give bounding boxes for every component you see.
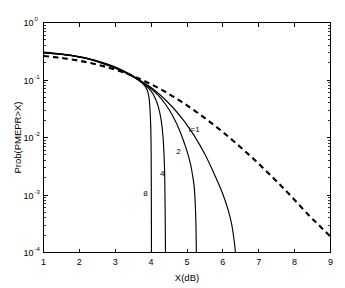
y-tick-label-exponent: -2 [35, 131, 41, 137]
curve-label-i-1: i=1 [189, 125, 200, 134]
y-tick-label: 10 [23, 133, 33, 143]
curves-group [44, 52, 331, 252]
curve-2 [44, 53, 197, 253]
curve-label-4: 4 [160, 169, 165, 178]
y-tick-label-exponent: -3 [35, 189, 41, 195]
plot-frame [44, 23, 331, 253]
curve-8 [44, 53, 152, 253]
clipped-curves [44, 52, 331, 252]
y-axis-label: Prob(PMEPR>X) [12, 101, 23, 173]
y-tick-label: 10 [23, 248, 33, 258]
x-tick-label: 9 [328, 257, 333, 267]
x-tick-label: 4 [149, 257, 154, 267]
y-tick-label: 10 [23, 18, 33, 28]
axis-labels-group: X(dB)Prob(PMEPR>X) [12, 101, 199, 282]
curve-label-8: 8 [143, 189, 148, 198]
y-tick-label: 10 [23, 191, 33, 201]
x-tick-label: 6 [220, 257, 225, 267]
curve-label-2: 2 [176, 147, 181, 156]
x-tick-label: 2 [77, 257, 82, 267]
x-tick-label: 1 [41, 257, 46, 267]
tick-labels-group: 12345678910010-110-210-310-4 [23, 16, 333, 267]
y-tick-label-exponent: -1 [35, 74, 41, 80]
curve-reference [44, 56, 331, 237]
chart-figure: 12345678910010-110-210-310-4 i=1248 X(dB… [0, 0, 345, 288]
curve-i-1 [44, 52, 236, 252]
x-tick-label: 7 [256, 257, 261, 267]
x-tick-label: 5 [184, 257, 189, 267]
y-tick-label-exponent: 0 [35, 16, 39, 22]
x-tick-label: 3 [113, 257, 118, 267]
x-axis-label: X(dB) [175, 272, 199, 283]
x-tick-label: 8 [292, 257, 297, 267]
y-tick-label: 10 [23, 76, 33, 86]
y-tick-label-exponent: -4 [35, 246, 41, 252]
chart-canvas: 12345678910010-110-210-310-4 i=1248 X(dB… [0, 0, 345, 288]
axes-group [44, 23, 331, 253]
